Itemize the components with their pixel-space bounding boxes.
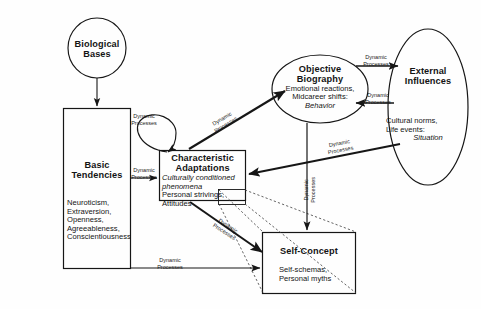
callout-dashed-bottom — [245, 204, 356, 293]
node-shape-objective-biography — [272, 55, 368, 123]
node-shape-biological-bases — [68, 18, 126, 78]
node-shape-characteristic-adaptations — [160, 151, 246, 201]
diagram-canvas — [0, 0, 481, 309]
callout-dashed-upper — [245, 190, 356, 232]
node-shape-basic-tendencies — [64, 109, 131, 269]
node-shape-self-concept — [263, 233, 356, 294]
personality-system-diagram: Biological Bases Basic Tendencies Neurot… — [0, 0, 481, 309]
edge-external-to-characteristic — [249, 144, 400, 174]
edge-characteristic-to-objective — [189, 91, 285, 149]
node-shape-external-influences — [388, 29, 468, 185]
edge-characteristic-to-self-concept — [190, 202, 262, 252]
edge-characteristic-self-loop — [137, 115, 176, 152]
